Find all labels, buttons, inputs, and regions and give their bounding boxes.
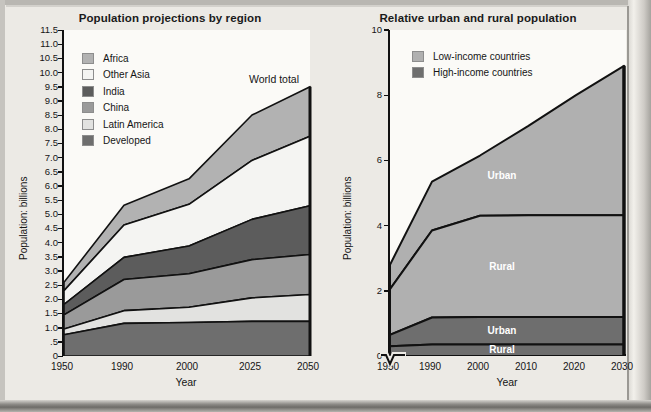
chart1-legend-label: Other Asia: [103, 69, 150, 80]
chart1-y-tick-label: 10.0: [18, 67, 58, 78]
chart1-x-tick-label: 2000: [165, 361, 209, 372]
chart2-y-tick-label: 6: [342, 154, 382, 165]
chart1-y-tick-label: 3.0: [18, 265, 58, 276]
chart2-title: Relative urban and rural population: [338, 12, 618, 24]
chart1-x-tick-label: 1990: [100, 361, 144, 372]
chart1-legend-label: Developed: [103, 135, 151, 146]
chart1-legend-item: India: [82, 83, 164, 100]
chart2-x-tick-label: 2020: [552, 361, 596, 372]
chart2-x-axis-label: Year: [388, 376, 626, 388]
chart2-legend-item: High-income countries: [412, 65, 533, 82]
chart1-y-tick-label: 7.0: [18, 152, 58, 163]
chart2-y-tick-label: 2: [342, 285, 382, 296]
chart1-legend-label: Africa: [103, 53, 129, 64]
chart1-legend-swatch-other-asia: [82, 69, 94, 80]
chart2-y-tick-label: 0: [342, 350, 382, 361]
chart1-y-tick-label: 6.5: [18, 166, 58, 177]
chart1-legend-item: Other Asia: [82, 67, 164, 84]
chart1-y-tick-label: 9.0: [18, 95, 58, 106]
chart1-y-tick-label: 0: [18, 350, 58, 361]
chart1-legend-item: Africa: [82, 50, 164, 67]
chart1-x-tick-label: 1950: [40, 361, 84, 372]
chart1-y-tick-label: .5: [18, 336, 58, 347]
chart1-y-tick-label: 6.0: [18, 180, 58, 191]
chart1-y-tick-label: 1.5: [18, 307, 58, 318]
chart1-y-tick-label: 11.0: [18, 38, 58, 49]
chart1-title: Population projections by region: [20, 12, 320, 24]
chart2-x-axis-break-icon: [380, 352, 406, 366]
chart1-x-tick-label: 2025: [228, 361, 272, 372]
chart1-legend-swatch-developed: [82, 135, 94, 146]
chart1-legend-label: China: [103, 102, 129, 113]
chart1-y-tick-label: 10.5: [18, 52, 58, 63]
chart1-y-tick-label: 2.0: [18, 293, 58, 304]
chart2-y-tick-label: 10: [342, 24, 382, 35]
chart-urban-rural: Relative urban and rural population Popu…: [330, 0, 630, 400]
chart2-x-tick-label: 2010: [504, 361, 548, 372]
chart1-legend-item: Developed: [82, 133, 164, 150]
chart1-y-tick-label: 8.0: [18, 123, 58, 134]
chart2-band-label-0: Urban: [472, 170, 532, 181]
chart1-y-tick-label: 3.5: [18, 251, 58, 262]
chart1-legend-swatch-latin-america: [82, 119, 94, 130]
chart2-x-tick-label: 2030: [600, 361, 644, 372]
chart2-band-label-3: Rural: [472, 344, 532, 355]
chart1-legend-item: Latin America: [82, 116, 164, 133]
chart1-y-tick-label: 8.5: [18, 109, 58, 120]
chart1-x-axis-label: Year: [62, 376, 310, 388]
chart2-legend: Low-income countriesHigh-income countrie…: [412, 48, 533, 81]
figure-panel: Population projections by region Populat…: [0, 0, 651, 412]
chart2-legend-label: High-income countries: [433, 67, 533, 78]
chart1-legend-swatch-india: [82, 86, 94, 97]
chart2-x-tick-label: 2000: [456, 361, 500, 372]
chart1-y-tick-label: 5.5: [18, 194, 58, 205]
chart1-y-tick-label: 1.0: [18, 322, 58, 333]
chart1-legend-label: India: [103, 86, 125, 97]
chart2-x-tick-label: 1990: [408, 361, 452, 372]
page-frame-right: [628, 0, 651, 412]
chart2-y-axis-label: Population: billions: [342, 177, 353, 260]
chart-population-projections: Population projections by region Populat…: [0, 0, 330, 400]
chart1-legend: AfricaOther AsiaIndiaChinaLatin AmericaD…: [82, 50, 164, 149]
chart2-legend-item: Low-income countries: [412, 48, 533, 65]
chart1-y-tick-label: 9.5: [18, 81, 58, 92]
chart2-band-label-2: Urban: [472, 325, 532, 336]
chart1-legend-swatch-china: [82, 102, 94, 113]
chart1-x-tick-label: 2050: [286, 361, 330, 372]
chart2-y-tick-label: 4: [342, 220, 382, 231]
chart2-legend-swatch-low-income-countries: [412, 51, 424, 62]
chart2-legend-label: Low-income countries: [433, 51, 530, 62]
chart1-world-total-annotation: World total: [249, 73, 299, 85]
chart2-band-label-1: Rural: [472, 261, 532, 272]
page-frame-bottom: [0, 400, 651, 412]
chart1-legend-label: Latin America: [103, 119, 164, 130]
chart1-y-tick-label: 5.0: [18, 208, 58, 219]
chart1-y-tick-label: 4.5: [18, 222, 58, 233]
chart1-y-tick-label: 4.0: [18, 237, 58, 248]
chart1-y-tick-label: 11.5: [18, 24, 58, 35]
chart2-y-tick-label: 8: [342, 89, 382, 100]
chart2-legend-swatch-high-income-countries: [412, 67, 424, 78]
chart1-legend-item: China: [82, 100, 164, 117]
chart1-y-tick-label: 7.5: [18, 137, 58, 148]
chart1-y-tick-label: 2.5: [18, 279, 58, 290]
chart1-legend-swatch-africa: [82, 53, 94, 64]
